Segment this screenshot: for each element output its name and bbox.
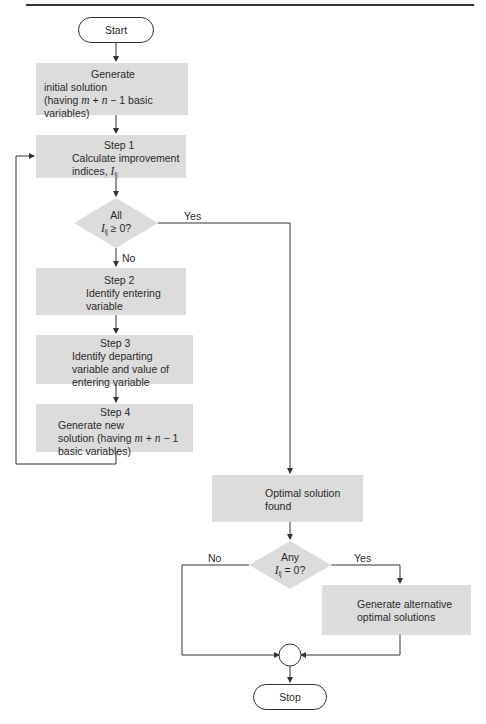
decision-all-line-1: All <box>110 209 122 221</box>
decision-any-yes-label: Yes <box>354 552 371 564</box>
step3-line-3: entering variable <box>72 376 187 389</box>
stop-label: Stop <box>279 691 301 703</box>
generate-line-2: (having m + n − 1 basic variables) <box>44 94 182 120</box>
step3-line-2: variable and value of <box>72 363 187 376</box>
start-label: Start <box>105 24 127 36</box>
step3-line-1: Identify departing <box>72 350 187 363</box>
step2-box: Step 2 Identify entering variable <box>36 268 186 315</box>
step1-title: Step 1 <box>72 139 180 152</box>
decision-all-line-2: Iij ≥ 0? <box>101 222 131 234</box>
alternative-line-1: Generate alternative <box>357 598 465 611</box>
generate-line-1: initial solution <box>44 81 182 94</box>
decision-all-text: All Iij ≥ 0? <box>86 209 146 238</box>
step1-line-2: indices, Iij <box>72 165 180 181</box>
start-terminal: Start <box>78 17 154 43</box>
optimal-solution-box: Optimal solution found <box>212 475 363 522</box>
step4-title: Step 4 <box>58 406 187 419</box>
step1-box: Step 1 Calculate improvement indices, Ii… <box>36 135 186 178</box>
step4-line-2: solution (having m + n − 1 <box>58 432 187 445</box>
alternative-solutions-box: Generate alternative optimal solutions <box>322 585 471 635</box>
generate-initial-box: Generate initial solution (having m + n … <box>36 63 188 115</box>
stop-terminal: Stop <box>253 684 327 710</box>
step2-title: Step 2 <box>86 274 180 287</box>
decision-any-text: Any Iij = 0? <box>260 551 320 580</box>
arrow-alternative-to-junction <box>301 635 400 655</box>
step2-line-2: variable <box>86 300 180 313</box>
step3-box: Step 3 Identify departing variable and v… <box>36 335 193 384</box>
decision-all-yes-label: Yes <box>184 210 201 222</box>
step4-line-1: Generate new <box>58 419 187 432</box>
decision-any-line-2: Iij = 0? <box>275 564 306 576</box>
step1-line-1: Calculate improvement <box>72 152 180 165</box>
decision-all-no-label: No <box>122 252 135 264</box>
junction-circle <box>279 644 301 666</box>
step2-line-1: Identify entering <box>86 287 180 300</box>
optimal-line-1: Optimal solution <box>265 487 357 500</box>
step4-line-3: basic variables) <box>58 445 187 458</box>
decision-any-no-label: No <box>208 552 221 564</box>
alternative-line-2: optimal solutions <box>357 611 465 624</box>
generate-title: Generate <box>44 68 182 81</box>
step3-title: Step 3 <box>72 337 187 350</box>
step4-box: Step 4 Generate new solution (having m +… <box>36 404 193 452</box>
arrow-decision-any-yes <box>331 565 400 583</box>
decision-any-line-1: Any <box>281 551 299 563</box>
optimal-line-2: found <box>265 500 357 513</box>
